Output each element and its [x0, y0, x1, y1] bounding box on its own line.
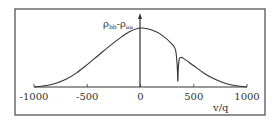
x-tick-label: -500	[76, 91, 98, 102]
y-axis-arrow-icon	[138, 13, 142, 19]
x-tick-label: 0	[137, 91, 143, 102]
chart: -1000-50005001000 ρbb-ρaa v/q	[0, 0, 277, 122]
x-tick-label: 500	[184, 91, 203, 102]
x-tick-label: -1000	[20, 91, 49, 102]
x-axis-label: v/q	[212, 102, 229, 113]
y-axis-label: ρbb-ρaa	[103, 18, 133, 30]
x-tick-label: 1000	[234, 91, 259, 102]
